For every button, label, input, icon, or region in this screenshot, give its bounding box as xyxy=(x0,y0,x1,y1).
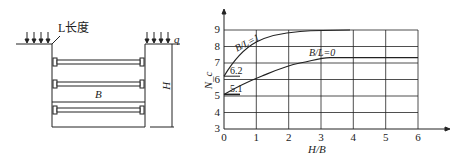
width-label: B xyxy=(95,89,102,100)
svg-text:2: 2 xyxy=(286,131,292,143)
excavation-diagram: L长度 q B H xyxy=(0,0,200,161)
height-label: H xyxy=(161,82,172,90)
svg-text:1: 1 xyxy=(254,131,260,143)
nc-chart: 9 8 7 6 5 4 3 0 1 2 3 4 5 6 H/B N_c B/L=… xyxy=(196,0,456,161)
chart-plot: 9 8 7 6 5 4 3 0 1 2 3 4 5 6 xyxy=(196,0,456,161)
load-arrows-right xyxy=(145,32,170,43)
svg-text:4: 4 xyxy=(215,106,221,118)
svg-text:6: 6 xyxy=(215,73,221,85)
annotation-5-1: 5.1 xyxy=(230,84,243,94)
x-axis-label: H/B xyxy=(308,144,326,155)
svg-text:8: 8 xyxy=(215,40,221,52)
svg-text:3: 3 xyxy=(318,131,324,143)
load-arrows-left xyxy=(25,32,50,43)
series-label-bl-0: B/L=0 xyxy=(309,48,335,58)
svg-text:4: 4 xyxy=(351,131,357,143)
svg-text:5: 5 xyxy=(215,89,221,101)
y-axis-label: N_c xyxy=(203,72,214,90)
length-label: L长度 xyxy=(58,22,89,34)
svg-text:0: 0 xyxy=(221,131,227,143)
svg-text:5: 5 xyxy=(383,131,389,143)
svg-text:6: 6 xyxy=(415,131,421,143)
svg-text:9: 9 xyxy=(215,23,221,35)
annotation-6-2: 6.2 xyxy=(230,66,243,76)
svg-text:3: 3 xyxy=(215,122,221,134)
load-label: q xyxy=(174,34,180,45)
svg-text:7: 7 xyxy=(215,56,221,68)
excavation-drawing xyxy=(0,0,200,161)
struts xyxy=(53,58,144,114)
